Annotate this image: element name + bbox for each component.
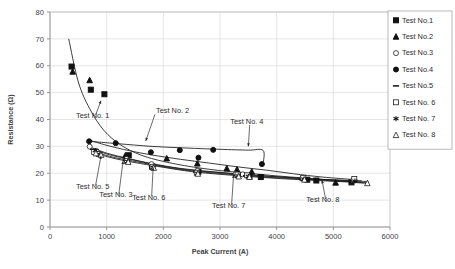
data-point-filled-circle <box>196 155 201 160</box>
legend-item-label: Test No.4 <box>402 65 433 74</box>
data-point-filled-circle <box>394 67 399 72</box>
legend-item-label: Test No.5 <box>402 81 433 90</box>
annotation-label: Test No. 8 <box>306 195 339 204</box>
legend-item-label: Test No.3 <box>402 48 433 57</box>
resistance-vs-peak-current-chart: Test No. 1Test No. 2Test No. 4Test No. 5… <box>0 0 455 269</box>
data-point-filled-square <box>258 175 263 180</box>
data-point-filled-circle <box>259 162 264 167</box>
y-tick-label: 50 <box>36 88 44 97</box>
x-tick-label: 6000 <box>382 232 399 241</box>
y-tick-label: 0 <box>40 223 44 232</box>
chart-background <box>0 0 455 269</box>
y-axis-label: Resistance (Ω) <box>6 94 15 145</box>
data-point-filled-circle <box>148 150 153 155</box>
annotation-label: Test No. 1 <box>76 111 109 120</box>
data-point-open-circle <box>394 51 399 56</box>
data-point-filled-circle <box>211 147 216 152</box>
x-tick-label: 3000 <box>212 232 229 241</box>
legend-item-label: Test No. 6 <box>402 98 435 107</box>
x-tick-label: 2000 <box>155 232 172 241</box>
x-tick-label: 5000 <box>325 232 342 241</box>
y-tick-label: 70 <box>36 35 44 44</box>
data-point-filled-circle <box>177 148 182 153</box>
data-point-open-square <box>394 100 399 105</box>
annotation-label: Test No. 4 <box>230 117 263 126</box>
data-point-filled-square <box>394 18 399 23</box>
legend-item-label: Test No.1 <box>402 16 433 25</box>
legend-item-label: Test No. 8 <box>402 130 435 139</box>
annotation-label: Test No. 7 <box>212 201 245 210</box>
data-point-filled-circle <box>113 141 118 146</box>
annotation-label: Test No. 3 <box>99 190 132 199</box>
x-tick-label: 4000 <box>268 232 285 241</box>
y-tick-label: 40 <box>36 115 44 124</box>
y-tick-label: 80 <box>36 8 44 17</box>
legend-item-label: Test No. 7 <box>402 114 435 123</box>
x-tick-label: 0 <box>48 232 52 241</box>
data-point-open-circle <box>87 144 92 149</box>
annotation-label: Test No. 2 <box>156 106 189 115</box>
y-tick-label: 10 <box>36 196 44 205</box>
y-tick-label: 20 <box>36 169 44 178</box>
data-point-filled-square <box>314 178 319 183</box>
chart-legend[interactable]: Test No.1Test No.2Test No.3Test No.4Test… <box>388 11 452 149</box>
x-axis-label: Peak Current (A) <box>192 247 249 256</box>
x-tick-label: 1000 <box>98 232 115 241</box>
data-point-filled-square <box>102 92 107 97</box>
legend-item-label: Test No.2 <box>402 32 433 41</box>
y-tick-label: 60 <box>36 61 44 70</box>
figure-container: Test No. 1Test No. 2Test No. 4Test No. 5… <box>0 0 455 269</box>
annotation-label: Test No. 6 <box>132 193 165 202</box>
page-caption-fragment <box>0 260 455 269</box>
data-point-filled-square <box>88 87 93 92</box>
y-tick-label: 30 <box>36 142 44 151</box>
data-point-filled-square <box>69 64 74 69</box>
data-point-filled-circle <box>87 139 92 144</box>
